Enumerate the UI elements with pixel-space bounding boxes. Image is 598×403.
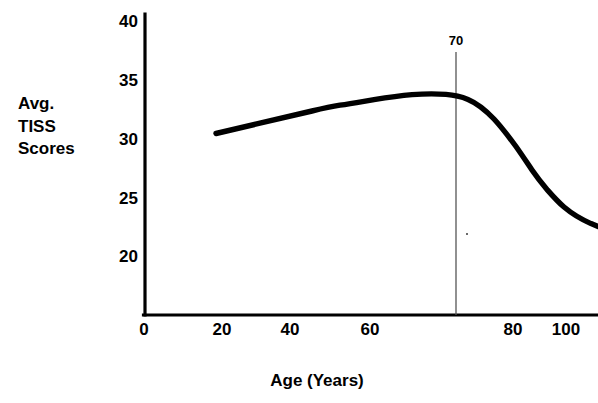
scan-speck <box>466 233 468 235</box>
x-axis-title-wrap: Age (Years) <box>0 371 598 391</box>
plot-area <box>0 0 598 403</box>
tiss-age-chart: Avg. TISS Scores 40 35 30 25 20 0 20 40 … <box>0 0 598 403</box>
tiss-score-curve <box>216 94 598 226</box>
x-axis-title: Age (Years) <box>234 371 364 390</box>
